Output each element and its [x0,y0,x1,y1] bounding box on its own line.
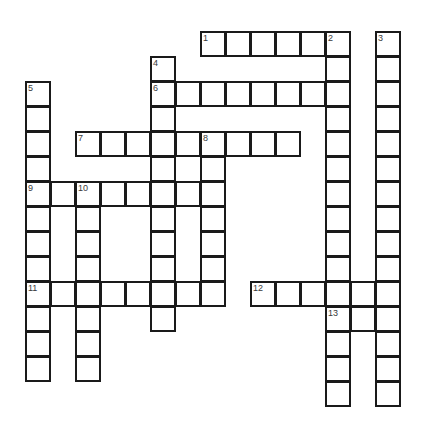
crossword-cell[interactable]: 6 [150,81,176,107]
crossword-cell[interactable] [75,206,101,232]
crossword-cell[interactable] [150,131,176,157]
crossword-cell[interactable] [375,131,401,157]
crossword-cell[interactable] [200,231,226,257]
crossword-cell[interactable] [325,56,351,82]
crossword-cell[interactable] [25,256,51,282]
crossword-cell[interactable] [375,206,401,232]
crossword-cell[interactable] [100,131,126,157]
crossword-cell[interactable] [325,281,351,307]
crossword-cell[interactable] [325,81,351,107]
crossword-cell[interactable] [175,181,201,207]
crossword-cell[interactable] [375,281,401,307]
crossword-cell[interactable] [225,131,251,157]
crossword-cell[interactable] [175,281,201,307]
crossword-cell[interactable] [375,356,401,382]
crossword-cell[interactable] [200,181,226,207]
crossword-cell[interactable]: 5 [25,81,51,107]
crossword-cell[interactable] [50,181,76,207]
crossword-cell[interactable] [325,356,351,382]
crossword-cell[interactable]: 1 [200,31,226,57]
crossword-cell[interactable] [375,231,401,257]
crossword-cell[interactable] [375,156,401,182]
crossword-cell[interactable]: 9 [25,181,51,207]
crossword-cell[interactable] [25,106,51,132]
crossword-cell[interactable]: 4 [150,56,176,82]
crossword-cell[interactable] [375,81,401,107]
crossword-cell[interactable] [325,381,351,407]
crossword-cell[interactable] [300,31,326,57]
crossword-cell[interactable] [75,231,101,257]
crossword-cell[interactable] [250,131,276,157]
crossword-cell[interactable]: 11 [25,281,51,307]
crossword-cell[interactable] [325,131,351,157]
crossword-cell[interactable] [75,331,101,357]
crossword-cell[interactable] [325,231,351,257]
crossword-cell[interactable] [200,81,226,107]
crossword-cell[interactable] [350,281,376,307]
crossword-cell[interactable]: 12 [250,281,276,307]
crossword-cell[interactable]: 7 [75,131,101,157]
crossword-cell[interactable] [225,81,251,107]
crossword-cell[interactable] [250,81,276,107]
crossword-cell[interactable] [200,206,226,232]
crossword-cell[interactable] [100,281,126,307]
crossword-cell[interactable] [25,231,51,257]
crossword-cell[interactable] [375,106,401,132]
crossword-cell[interactable] [25,331,51,357]
crossword-cell[interactable] [25,356,51,382]
crossword-cell[interactable] [25,131,51,157]
crossword-cell[interactable] [175,131,201,157]
crossword-cell[interactable] [375,56,401,82]
crossword-cell[interactable] [375,181,401,207]
crossword-cell[interactable] [125,181,151,207]
crossword-cell[interactable] [125,131,151,157]
crossword-cell[interactable] [150,281,176,307]
crossword-cell[interactable] [375,256,401,282]
crossword-cell[interactable] [250,31,276,57]
crossword-cell[interactable] [325,106,351,132]
crossword-cell[interactable] [300,281,326,307]
crossword-cell[interactable] [25,156,51,182]
crossword-cell[interactable] [225,31,251,57]
crossword-cell[interactable]: 10 [75,181,101,207]
crossword-cell[interactable] [375,381,401,407]
crossword-cell[interactable]: 2 [325,31,351,57]
crossword-cell[interactable] [50,281,76,307]
crossword-cell[interactable] [200,281,226,307]
crossword-cell[interactable] [150,206,176,232]
crossword-cell[interactable]: 13 [325,306,351,332]
crossword-cell[interactable] [100,181,126,207]
crossword-cell[interactable] [275,81,301,107]
crossword-cell[interactable] [175,81,201,107]
crossword-cell[interactable] [375,331,401,357]
crossword-cell[interactable]: 3 [375,31,401,57]
crossword-cell[interactable] [325,181,351,207]
crossword-cell[interactable] [325,256,351,282]
crossword-cell[interactable] [150,181,176,207]
crossword-cell[interactable] [150,156,176,182]
crossword-cell[interactable] [275,131,301,157]
crossword-cell[interactable] [125,281,151,307]
crossword-cell[interactable] [275,31,301,57]
crossword-cell[interactable] [275,281,301,307]
crossword-cell[interactable] [150,231,176,257]
crossword-cell[interactable] [350,306,376,332]
crossword-cell[interactable] [150,256,176,282]
crossword-cell[interactable] [150,106,176,132]
crossword-cell[interactable] [25,306,51,332]
crossword-cell[interactable] [75,281,101,307]
crossword-cell[interactable] [75,306,101,332]
crossword-cell[interactable] [200,156,226,182]
crossword-cell[interactable] [375,306,401,332]
crossword-cell[interactable]: 8 [200,131,226,157]
crossword-cell[interactable] [200,256,226,282]
crossword-cell[interactable] [325,331,351,357]
crossword-cell[interactable] [325,206,351,232]
crossword-grid[interactable]: 12345678910111213 [0,0,427,446]
crossword-cell[interactable] [75,256,101,282]
crossword-cell[interactable] [150,306,176,332]
crossword-cell[interactable] [325,156,351,182]
crossword-cell[interactable] [300,81,326,107]
crossword-cell[interactable] [75,356,101,382]
crossword-cell[interactable] [25,206,51,232]
